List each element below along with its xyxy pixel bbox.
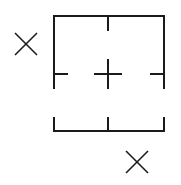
diagram-canvas [0, 0, 181, 185]
x-marker-icon [126, 151, 148, 173]
x-markers [15, 33, 148, 173]
center-plus-icon [95, 60, 121, 88]
x-marker-icon [15, 33, 37, 55]
bottom-bracket [54, 118, 164, 131]
